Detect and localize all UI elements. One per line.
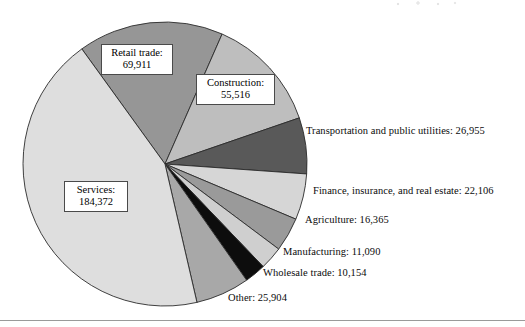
scan-artifact — [392, 1, 466, 8]
label-other: Other: 25,904 — [228, 292, 287, 304]
callout-retail-trade: Retail trade: 69,911 — [101, 44, 173, 75]
callout-construction: Construction: 55,516 — [196, 74, 275, 105]
label-wholesale-trade: Wholesale trade: 10,154 — [263, 267, 367, 279]
callout-services-name: Services: — [70, 184, 122, 196]
bottom-separator-rule — [0, 320, 525, 321]
label-finance-insurance-and-real-estate: Finance, insurance, and real estate: 22,… — [313, 185, 494, 197]
label-transportation-and-public-utilities: Transportation and public utilities: 26,… — [306, 125, 485, 137]
callout-retail-trade-name: Retail trade: — [107, 47, 167, 59]
callout-retail-trade-value: 69,911 — [107, 59, 167, 71]
pie-chart-figure: Retail trade: 69,911Construction: 55,516… — [0, 0, 525, 327]
callout-construction-name: Construction: — [202, 77, 269, 89]
callout-construction-value: 55,516 — [202, 89, 269, 101]
callout-services-value: 184,372 — [70, 196, 122, 208]
label-agriculture: Agriculture: 16,365 — [305, 214, 389, 226]
label-manufacturing: Manufacturing: 11,090 — [283, 246, 380, 258]
callout-services: Services: 184,372 — [64, 181, 128, 212]
